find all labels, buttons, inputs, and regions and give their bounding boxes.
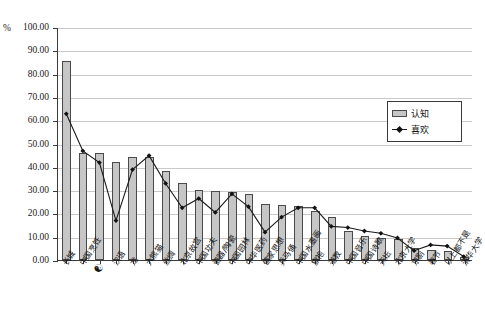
legend-bar-swatch-icon <box>392 110 407 117</box>
line-series-overlay <box>58 28 472 260</box>
line-data-point-marker <box>379 231 384 236</box>
x-axis-labels-group: 长城中国烹饪☯汉语龙大熊猫丝绸北京故宫中国功夫瓷器/陶瓷中国园林中华医药儒家思想… <box>57 263 485 334</box>
y-axis-tick <box>53 261 58 262</box>
legend-label-preference: 喜欢 <box>411 123 429 136</box>
y-axis-label: 80.00 <box>0 70 49 79</box>
chart-legend: 认知 喜欢 <box>387 101 462 142</box>
line-data-point-marker <box>64 111 69 116</box>
y-axis-label: 100.00 <box>0 23 49 32</box>
line-data-point-marker <box>362 229 367 234</box>
line-data-point-marker <box>345 225 350 230</box>
y-axis-label: 50.00 <box>0 140 49 149</box>
line-data-point-marker <box>428 243 433 248</box>
legend-item-preference: 喜欢 <box>392 121 457 137</box>
y-axis-label: 0.00 <box>0 256 49 265</box>
line-data-point-marker <box>114 218 119 223</box>
legend-item-awareness: 认知 <box>392 105 457 121</box>
y-axis-label: 90.00 <box>0 46 49 55</box>
y-axis-label: 20.00 <box>0 209 49 218</box>
line-data-point-marker <box>296 205 301 210</box>
y-axis-label: 10.00 <box>0 233 49 242</box>
chart-container: % 100.0090.0080.0070.0060.0050.0040.0030… <box>0 0 485 334</box>
y-axis-label: 60.00 <box>0 116 49 125</box>
y-axis-label: 40.00 <box>0 163 49 172</box>
x-axis-label: ☯ <box>94 265 104 273</box>
legend-line-marker-icon <box>392 126 407 133</box>
y-axis-label: 70.00 <box>0 93 49 102</box>
plot-area <box>57 28 472 261</box>
legend-label-awareness: 认知 <box>411 107 429 120</box>
y-axis-label: 30.00 <box>0 186 49 195</box>
